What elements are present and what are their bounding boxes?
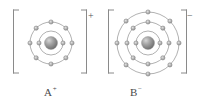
bracket-right-open: [109, 10, 114, 73]
cation-bracket-charge: +: [88, 11, 94, 21]
cation-caption-charge: +: [53, 85, 57, 93]
anion-caption-charge: −: [138, 85, 142, 93]
cation-group: [14, 10, 87, 73]
atoms-diagram: [0, 0, 203, 104]
anion-caption-symbol: B: [130, 86, 138, 98]
cation-caption-symbol: A: [44, 86, 52, 98]
bracket-left-open: [14, 10, 19, 73]
anion-nucleus: [142, 37, 155, 50]
anion-caption: B−: [130, 86, 142, 98]
bracket-left-close: [82, 10, 87, 73]
anion-group: [109, 10, 187, 76]
bracket-right-close: [182, 10, 187, 73]
cation-nucleus: [45, 37, 58, 50]
bohr-model-figure: + − A+ B−: [0, 0, 203, 104]
anion-bracket-charge: −: [187, 11, 193, 21]
cation-caption: A+: [44, 86, 57, 98]
